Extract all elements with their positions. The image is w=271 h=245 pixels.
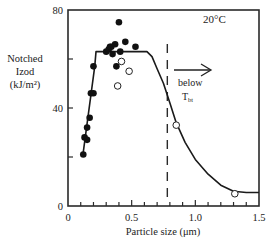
- y-label-line-3: (kJ/m²): [10, 79, 41, 91]
- closed-point-marker: [84, 124, 91, 131]
- open-data-points: [114, 58, 238, 197]
- closed-point-marker: [109, 51, 116, 58]
- closed-point-marker: [132, 43, 139, 50]
- closed-point-marker: [122, 39, 129, 46]
- open-point-marker: [173, 122, 180, 129]
- closed-point-marker: [80, 151, 87, 158]
- open-point-marker: [126, 68, 133, 75]
- x-tick-label: 1.5: [252, 212, 265, 223]
- tbt-subscript: bt: [188, 96, 193, 103]
- x-tick-label: 0.5: [125, 212, 138, 223]
- closed-point-marker: [117, 48, 124, 55]
- y-label-line-1: Notched: [7, 53, 43, 64]
- open-point-marker: [232, 190, 239, 197]
- below-tbt-annotation: below Tbt: [174, 64, 211, 103]
- closed-point-marker: [113, 63, 120, 70]
- closed-data-points: [80, 19, 139, 158]
- closed-point-marker: [90, 63, 97, 70]
- y-axis-label: Notched Izod (kJ/m²): [7, 53, 43, 91]
- trend-line: [83, 52, 259, 193]
- closed-point-marker: [112, 41, 119, 48]
- x-axis-label: Particle size (μm): [126, 226, 201, 238]
- below-label: below: [178, 77, 203, 88]
- closed-point-marker: [116, 19, 123, 26]
- impact-strength-chart: 00.51.01.504080 20°C below Tbt Notched I…: [0, 0, 271, 245]
- closed-point-marker: [84, 137, 91, 144]
- y-tick-label: 0: [58, 201, 63, 212]
- y-tick-label: 40: [53, 103, 64, 114]
- trend-path: [83, 52, 259, 193]
- open-point-marker: [114, 83, 121, 90]
- closed-point-marker: [90, 90, 97, 97]
- tbt-label: Tbt: [182, 91, 193, 103]
- open-point-marker: [118, 58, 125, 65]
- x-tick-label: 1.0: [189, 212, 202, 223]
- plot-frame: [68, 10, 259, 206]
- x-tick-label: 0: [65, 212, 70, 223]
- y-tick-label: 80: [53, 5, 64, 16]
- temperature-annotation: 20°C: [203, 13, 226, 25]
- y-label-line-2: Izod: [16, 66, 35, 77]
- closed-point-marker: [86, 115, 93, 122]
